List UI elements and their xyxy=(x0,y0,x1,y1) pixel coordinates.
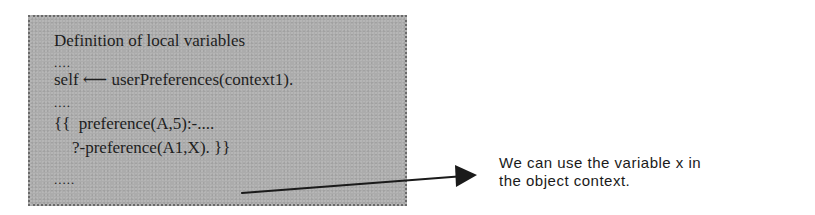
annotation-line-2: the object context. xyxy=(499,172,701,190)
ellipsis-line-2: .... xyxy=(54,96,71,110)
code-title: Definition of local variables xyxy=(54,31,245,51)
preference-rule-line: {{ preference(A,5):-.... xyxy=(54,114,214,134)
ellipsis-line-3: ..... xyxy=(54,173,75,187)
code-box: Definition of local variables .... self … xyxy=(28,15,407,206)
self-assignment-line: self ⟵ userPreferences(context1). xyxy=(54,70,293,90)
preference-query-line: ?-preference(A1,X). }} xyxy=(72,138,230,158)
annotation-line-1: We can use the variable x in xyxy=(499,154,701,172)
annotation-note: We can use the variable x in the object … xyxy=(499,154,701,190)
ellipsis-line-1: .... xyxy=(54,56,71,70)
